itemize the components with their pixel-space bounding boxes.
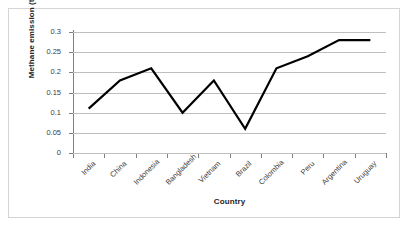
- x-tick-mark: [104, 154, 105, 158]
- line-series-methane-emission: [73, 32, 386, 153]
- plot-area: [73, 32, 386, 153]
- x-tick-label-uruguay: Uruguay: [351, 159, 379, 187]
- x-tick-mark: [323, 154, 324, 158]
- y-tick-label-0: 0: [21, 149, 61, 157]
- x-tick-label-brazil: Brazil: [226, 159, 254, 187]
- gridline-0: [73, 153, 386, 154]
- x-tick-mark: [167, 154, 168, 158]
- series-polyline: [89, 40, 371, 129]
- y-tick-label-0.2: 0.2: [21, 68, 61, 76]
- x-tick-label-india: India: [69, 159, 97, 187]
- chart-frame: Methane emission (t/ha) 00.050.10.150.20…: [8, 8, 400, 218]
- y-tick-label-0.25: 0.25: [21, 48, 61, 56]
- y-tick-label-0.3: 0.3: [21, 28, 61, 36]
- x-tick-mark: [261, 154, 262, 158]
- x-tick-label-peru: Peru: [289, 159, 317, 187]
- y-tick-label-0.1: 0.1: [21, 109, 61, 117]
- x-tick-label-indonesia: Indonesia: [132, 159, 160, 187]
- x-tick-mark: [230, 154, 231, 158]
- x-tick-mark: [73, 154, 74, 158]
- x-tick-mark: [292, 154, 293, 158]
- x-tick-mark: [386, 154, 387, 158]
- x-tick-label-bangladesh: Bangladesh: [163, 159, 191, 187]
- x-tick-mark: [355, 154, 356, 158]
- x-tick-label-china: China: [101, 159, 129, 187]
- x-tick-mark: [198, 154, 199, 158]
- x-tick-mark: [136, 154, 137, 158]
- y-tick-label-0.05: 0.05: [21, 129, 61, 137]
- x-tick-label-colombia: Colombia: [257, 159, 285, 187]
- x-axis-title: Country: [73, 197, 386, 206]
- x-tick-label-argentina: Argentina: [320, 159, 348, 187]
- y-tick-label-0.15: 0.15: [21, 89, 61, 97]
- x-tick-label-vietnam: Vietnam: [195, 159, 223, 187]
